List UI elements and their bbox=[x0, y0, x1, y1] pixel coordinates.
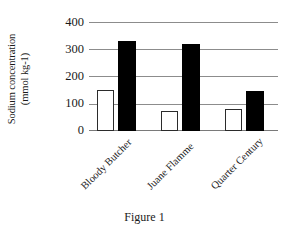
y-tick-label-300: 300 bbox=[50, 43, 84, 56]
x-label-juane-flamme: Juane Flamme bbox=[145, 141, 197, 193]
figure-caption: Figure 1 bbox=[0, 210, 289, 225]
figure-sodium-concentration: Sodium concentration (mmol kg-1) 400 300… bbox=[0, 0, 289, 235]
bar-quarter-century-white bbox=[225, 109, 242, 131]
y-tick-label-200: 200 bbox=[50, 70, 84, 83]
bar-juane-flamme-black bbox=[182, 44, 200, 131]
gridline-400 bbox=[89, 22, 278, 23]
y-tick-label-0: 0 bbox=[50, 124, 84, 137]
x-label-bloody-butcher: Bloody Butcher bbox=[79, 137, 135, 193]
bar-bloody-butcher-black bbox=[118, 41, 136, 131]
y-tick-label-400: 400 bbox=[50, 16, 84, 29]
y-tick-label-100: 100 bbox=[50, 97, 84, 110]
bar-juane-flamme-white bbox=[161, 111, 178, 131]
x-label-quarter-century: Quarter Century bbox=[209, 135, 266, 192]
plot-area bbox=[89, 22, 278, 131]
bar-quarter-century-black bbox=[246, 91, 264, 131]
bar-bloody-butcher-white bbox=[97, 90, 114, 131]
y-axis-title: Sodium concentration (mmol kg-1) bbox=[6, 9, 36, 149]
